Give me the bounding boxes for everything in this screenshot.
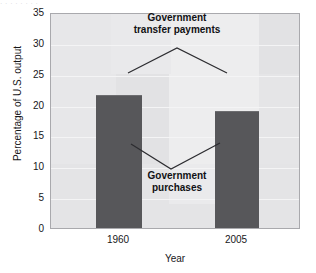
gridline-25: [51, 76, 299, 77]
y-axis-title: Percentage of U.S. output: [12, 24, 23, 184]
x-axis-title: Year: [50, 253, 300, 264]
y-tick-0: 0: [4, 224, 44, 234]
y-tick-15: 15: [4, 131, 44, 141]
bar-1960: [96, 95, 142, 228]
gridline-30: [51, 45, 299, 46]
plot-area: [50, 13, 300, 229]
chart-figure: · · · · · · · · 35 30 25 20 15 10 5 0 Pe…: [0, 0, 316, 273]
y-tick-20: 20: [4, 101, 44, 111]
annotation-transfer-payments: Government transfer payments: [102, 12, 252, 36]
clipped-text-artifact: · · · · · · · ·: [0, 0, 316, 7]
y-tick-5: 5: [4, 193, 44, 203]
y-tick-35: 35: [4, 8, 44, 18]
gridline-15: [51, 137, 299, 138]
y-tick-10: 10: [4, 162, 44, 172]
x-tick-2005: 2005: [206, 234, 266, 246]
y-tick-30: 30: [4, 39, 44, 49]
gridline-20: [51, 107, 299, 108]
annotation-government-purchases: Government purchases: [112, 170, 242, 194]
background-blotch: [259, 74, 300, 229]
x-tick-1960: 1960: [88, 234, 148, 246]
y-tick-25: 25: [4, 70, 44, 80]
gridline-5: [51, 199, 299, 200]
